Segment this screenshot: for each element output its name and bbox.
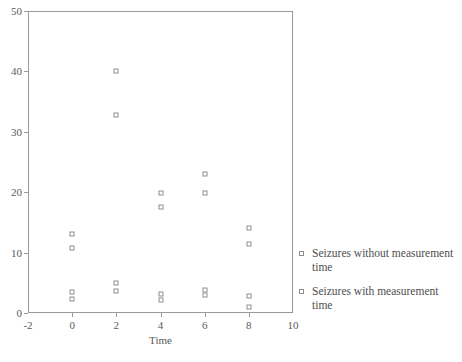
x-tick-label: 2 bbox=[101, 319, 131, 331]
x-tick-mark bbox=[205, 313, 206, 317]
chart-legend: Seizures without measurement time Seizur… bbox=[299, 246, 459, 322]
legend-item[interactable]: Seizures without measurement time bbox=[299, 246, 459, 274]
x-tick-label: 6 bbox=[190, 319, 220, 331]
y-tick-mark bbox=[24, 71, 28, 72]
legend-item[interactable]: Seizures with measurement time bbox=[299, 284, 459, 312]
legend-marker-icon bbox=[299, 289, 304, 294]
y-tick-mark bbox=[24, 11, 28, 12]
x-axis-title: Time bbox=[28, 334, 293, 346]
x-tick-label: 8 bbox=[234, 319, 264, 331]
scatter-plot-figure: 01020304050 -20246810 Time Seizures with… bbox=[0, 0, 462, 362]
y-tick-label: 20 bbox=[0, 187, 22, 198]
plot-area-frame bbox=[28, 11, 293, 313]
x-tick-mark bbox=[249, 313, 250, 317]
y-tick-label: 50 bbox=[0, 6, 22, 17]
legend-item-label: Seizures without measurement time bbox=[312, 246, 454, 274]
y-tick-mark bbox=[24, 192, 28, 193]
x-tick-label: 0 bbox=[57, 319, 87, 331]
x-tick-mark bbox=[116, 313, 117, 317]
y-tick-mark bbox=[24, 313, 28, 314]
x-tick-label: -2 bbox=[13, 319, 43, 331]
x-tick-mark bbox=[161, 313, 162, 317]
y-tick-mark bbox=[24, 253, 28, 254]
y-tick-label: 10 bbox=[0, 247, 22, 258]
x-tick-label: 4 bbox=[146, 319, 176, 331]
y-tick-label: 0 bbox=[0, 308, 22, 319]
y-tick-label: 40 bbox=[0, 66, 22, 77]
legend-item-label: Seizures with measurement time bbox=[312, 284, 454, 312]
x-tick-mark bbox=[72, 313, 73, 317]
y-tick-label: 30 bbox=[0, 126, 22, 137]
legend-marker-icon bbox=[299, 251, 304, 256]
y-tick-mark bbox=[24, 132, 28, 133]
